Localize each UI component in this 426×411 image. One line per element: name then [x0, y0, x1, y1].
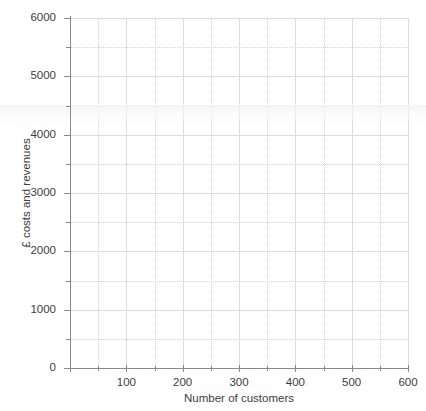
gridline-vertical-major	[183, 18, 184, 368]
gridline-horizontal-major	[70, 193, 408, 194]
y-tick-minor	[66, 281, 71, 282]
plot-area	[70, 18, 408, 368]
x-tick-label: 200	[163, 377, 203, 389]
gridline-vertical-major	[239, 18, 240, 368]
x-tick-major	[239, 365, 240, 372]
gridline-vertical-major	[126, 18, 127, 368]
gridline-horizontal-minor	[70, 222, 408, 223]
gridline-vertical-minor	[380, 18, 381, 368]
gridline-horizontal-major	[70, 76, 408, 77]
chart-figure: 0100020003000400050006000 10020030040050…	[0, 0, 426, 411]
x-tick-major	[183, 365, 184, 372]
x-tick-major	[408, 365, 409, 372]
gridline-vertical-minor	[98, 18, 99, 368]
gridline-horizontal-major	[70, 251, 408, 252]
y-tick-major	[64, 310, 71, 311]
x-tick-label: 300	[219, 377, 259, 389]
y-tick-minor	[66, 222, 71, 223]
y-tick-minor	[66, 47, 71, 48]
gridline-horizontal-minor	[70, 164, 408, 165]
x-tick-minor	[324, 366, 325, 371]
gridline-vertical-major	[352, 18, 353, 368]
x-tick-minor	[155, 366, 156, 371]
gridline-horizontal-major	[70, 18, 408, 19]
gridline-horizontal-major	[70, 135, 408, 136]
x-tick-minor	[98, 366, 99, 371]
x-tick-label: 100	[106, 377, 146, 389]
scan-artifact-band	[0, 105, 426, 125]
y-tick-major	[64, 193, 71, 194]
gridline-vertical-major	[295, 18, 296, 368]
x-tick-label: 400	[275, 377, 315, 389]
gridline-vertical-major	[408, 18, 409, 368]
y-axis-title: £ costs and revenues	[18, 18, 34, 368]
x-tick-minor	[211, 366, 212, 371]
x-tick-label: 500	[332, 377, 372, 389]
x-tick-minor	[267, 366, 268, 371]
gridline-vertical-minor	[211, 18, 212, 368]
x-tick-minor	[380, 366, 381, 371]
x-tick-major	[126, 365, 127, 372]
x-tick-label: 600	[388, 377, 426, 389]
x-tick-major	[295, 365, 296, 372]
x-axis-title: Number of customers	[70, 392, 408, 404]
gridline-horizontal-minor	[70, 281, 408, 282]
y-tick-major	[64, 251, 71, 252]
gridline-vertical-minor	[155, 18, 156, 368]
y-tick-minor	[66, 106, 71, 107]
y-tick-major	[64, 135, 71, 136]
y-tick-major	[64, 76, 71, 77]
gridline-vertical-minor	[267, 18, 268, 368]
gridline-vertical-minor	[324, 18, 325, 368]
gridline-horizontal-minor	[70, 339, 408, 340]
y-tick-major	[64, 18, 71, 19]
gridline-horizontal-minor	[70, 47, 408, 48]
gridline-horizontal-minor	[70, 106, 408, 107]
x-tick-major	[70, 365, 71, 372]
y-tick-minor	[66, 339, 71, 340]
gridline-horizontal-major	[70, 310, 408, 311]
x-tick-major	[352, 365, 353, 372]
y-tick-minor	[66, 164, 71, 165]
